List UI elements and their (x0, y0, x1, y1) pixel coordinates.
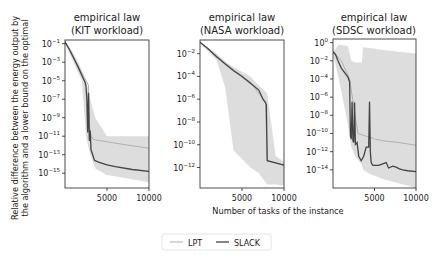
y-tick-label: 10−12 (306, 146, 328, 157)
y-tick-label: 10−13 (38, 149, 60, 160)
figure: Relative difference between the energy o… (0, 0, 446, 270)
y-tick-label: 10−5 (42, 75, 61, 86)
x-tick-label: 10000 (271, 194, 296, 203)
legend-label-slack: SLACK (234, 239, 261, 248)
y-tick-label: 10−15 (38, 167, 60, 178)
panel-sdsc-workload: empirical law (SDSC workload) 10010−210−… (306, 12, 429, 203)
panel-title-line2: (KIT workload) (71, 25, 143, 36)
y-tick-label: 10−9 (42, 112, 61, 123)
x-tick-label: 5000 (232, 194, 252, 203)
y-tick-label: 10−10 (306, 127, 328, 138)
variance-band (65, 42, 149, 183)
series-line-lpt (65, 42, 149, 148)
variance-band (200, 42, 284, 185)
plot-area (200, 42, 284, 185)
y-tick-label: 10−2 (310, 55, 328, 66)
y-tick-label: 10−1 (42, 38, 60, 49)
panel-title-line2: (NASA workload) (200, 25, 284, 36)
y-tick-label: 10−8 (177, 116, 196, 127)
x-tick-label: 5000 (97, 194, 117, 203)
plot-area (65, 42, 149, 183)
y-tick-label: 10−4 (310, 73, 329, 84)
panel-title-line2: (SDSC workload) (332, 25, 416, 36)
panel-title-line1: empirical law (341, 12, 408, 23)
legend-label-lpt: LPT (188, 239, 202, 248)
shared-y-label: Relative difference between the energy o… (10, 16, 30, 220)
y-tick-label: 10−11 (38, 130, 60, 141)
y-label-line1: Relative difference between the energy o… (10, 16, 20, 220)
panel-kit-workload: empirical law (KIT workload) 10−110−310−… (38, 12, 162, 203)
legend: LPT SLACK (162, 234, 271, 250)
y-label-line2: the algorithm and a lower bound on the o… (20, 20, 30, 217)
x-tick-label: 10000 (136, 194, 161, 203)
x-tick-label: 10000 (403, 194, 428, 203)
y-tick-label: 10−14 (306, 164, 328, 175)
panel-title-line1: empirical law (74, 12, 141, 23)
y-tick-label: 10−4 (177, 70, 196, 81)
panel-nasa-workload: empirical law (NASA workload) 10−210−410… (173, 12, 297, 203)
y-tick-label: 10−2 (177, 48, 195, 59)
variance-band (333, 44, 416, 188)
y-tick-label: 10−8 (310, 109, 329, 120)
plot-area (333, 44, 416, 188)
y-tick-label: 10−7 (42, 93, 61, 104)
y-tick-label: 10−6 (177, 93, 196, 104)
x-tick-label: 5000 (364, 194, 384, 203)
panel-title-line1: empirical law (209, 12, 276, 23)
y-tick-label: 10−10 (173, 139, 195, 150)
shared-x-label: Number of tasks of the instance (212, 206, 343, 216)
y-tick-label: 10−6 (310, 91, 329, 102)
y-tick-label: 100 (314, 37, 328, 48)
y-tick-label: 10−12 (173, 162, 195, 173)
y-tick-label: 10−3 (42, 56, 61, 67)
